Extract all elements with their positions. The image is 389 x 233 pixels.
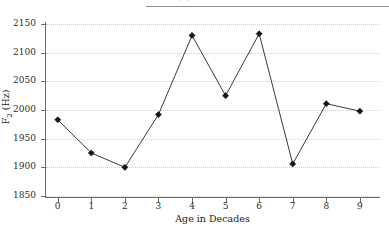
y-axis-title-sub: 2 <box>6 113 14 117</box>
y-axis-title-base: F <box>0 118 11 125</box>
series-markers <box>55 31 363 171</box>
data-point <box>222 93 228 99</box>
data-point <box>189 32 195 38</box>
series-line <box>58 34 360 168</box>
data-point <box>290 161 296 167</box>
y-axis-title: F2 (Hz) <box>0 77 14 137</box>
data-point <box>357 108 363 114</box>
y-axis-title-unit: (Hz) <box>0 90 11 114</box>
data-series <box>0 0 389 233</box>
data-point <box>122 164 128 170</box>
x-axis-title: Age in Decades <box>45 213 380 224</box>
data-point <box>256 31 262 37</box>
data-point <box>323 101 329 107</box>
data-point <box>155 111 161 117</box>
figure-canvas: y g 1850190019502000205021002150 0123456… <box>0 0 389 233</box>
